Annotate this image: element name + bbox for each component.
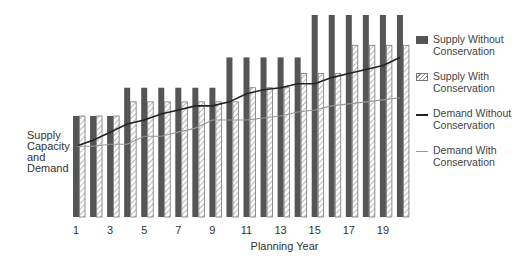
x-tick-label: 9: [209, 224, 215, 236]
gray-line-swatch-icon: [416, 151, 428, 152]
bar-supply-with: [318, 74, 324, 217]
bar-supply-without: [73, 116, 79, 217]
x-axis-label-text: Planning Year: [251, 240, 319, 252]
bar-supply-without: [226, 57, 232, 217]
bar-supply-with: [233, 102, 239, 217]
x-tick-label: 7: [175, 224, 181, 236]
bar-supply-without: [278, 57, 284, 217]
bar-supply-with: [369, 45, 375, 217]
x-tick-label: 19: [377, 224, 389, 236]
legend-label: Conservation: [433, 120, 511, 132]
bar-supply-with: [386, 45, 392, 217]
bar-supply-with: [165, 102, 171, 217]
bar-supply-without: [209, 88, 215, 217]
legend-item-supply-with: Supply With Conservation: [416, 71, 529, 108]
x-tick-label: 11: [241, 224, 252, 236]
y-axis-label: Supply Capacity and Demand: [27, 130, 70, 174]
x-tick-label: 1: [73, 224, 79, 236]
bar-supply-with: [80, 116, 86, 217]
bar-supply-without: [90, 116, 96, 217]
y-label-line: Demand: [27, 163, 70, 174]
bar-supply-with: [97, 116, 103, 217]
bar-supply-with: [301, 74, 307, 217]
legend-label: Supply With: [433, 71, 495, 83]
hatched-bar-swatch-icon: [416, 73, 428, 81]
legend-label: Demand With: [433, 145, 497, 157]
bar-supply-with: [131, 102, 137, 217]
bar-supply-with: [216, 102, 222, 217]
legend-label: Conservation: [433, 157, 497, 169]
x-tick-label: 17: [343, 224, 355, 236]
x-tick-label: 15: [309, 224, 321, 236]
bar-supply-without: [312, 15, 318, 217]
legend-label: Demand Without: [433, 108, 511, 120]
dark-line-swatch-icon: [416, 114, 428, 116]
bar-supply-without: [380, 15, 386, 217]
bar-supply-with: [335, 74, 341, 217]
bar-supply-without: [124, 88, 130, 217]
bar-supply-with: [250, 88, 256, 217]
bar-supply-without: [363, 15, 369, 217]
bar-supply-without: [141, 88, 147, 217]
bar-supply-with: [114, 116, 120, 217]
legend: Supply Without Conservation Supply With …: [416, 34, 529, 182]
x-tick-label: 13: [274, 224, 286, 236]
bar-supply-without: [244, 57, 250, 217]
legend-item-demand-with: Demand With Conservation: [416, 145, 529, 182]
bar-supply-with: [284, 88, 290, 217]
bar-supply-without: [158, 88, 164, 217]
legend-item-supply-without: Supply Without Conservation: [416, 34, 529, 71]
bar-supply-without: [295, 57, 301, 217]
legend-label: Supply Without: [433, 34, 504, 46]
legend-item-demand-without: Demand Without Conservation: [416, 108, 529, 145]
bar-supply-without: [397, 15, 403, 217]
bar-group: [73, 15, 409, 217]
bar-supply-with: [182, 102, 188, 217]
bar-supply-without: [329, 15, 335, 217]
bar-supply-with: [199, 102, 205, 217]
bar-supply-without: [346, 15, 352, 217]
x-axis-ticks: 135791113151719: [73, 224, 389, 236]
bar-supply-with: [267, 88, 273, 217]
bar-supply-without: [175, 88, 181, 217]
bar-supply-with: [403, 45, 409, 217]
solid-bar-swatch-icon: [416, 36, 428, 44]
legend-label: Conservation: [433, 83, 495, 95]
x-tick-label: 5: [141, 224, 147, 236]
bar-supply-without: [261, 57, 267, 217]
x-axis-label: Planning Year: [0, 240, 529, 252]
legend-label: Conservation: [433, 46, 504, 58]
x-tick-label: 3: [107, 224, 113, 236]
